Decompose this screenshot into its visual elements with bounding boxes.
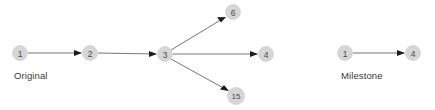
node-label: 2 [88, 49, 93, 59]
edge-2-to-3 [98, 51, 157, 57]
node-label: 1 [343, 49, 348, 59]
graph-svg: 1 2 3 6 4 15 [0, 0, 435, 110]
edge-3-to-6 [171, 17, 226, 50]
edge-m1-to-m4 [353, 50, 405, 56]
node-label: 4 [264, 50, 269, 60]
arrowhead-icon [149, 51, 157, 57]
node-label: 1 [18, 49, 23, 59]
diagram-milestone: 1 4 [338, 46, 421, 61]
edge-1-to-2 [28, 50, 82, 56]
diagram-original: 1 2 3 6 4 15 [13, 5, 274, 105]
node-label: 3 [163, 50, 168, 60]
node-milestone-1[interactable]: 1 [338, 46, 353, 61]
node-label: 15 [232, 92, 241, 101]
arrowhead-icon [250, 51, 258, 57]
node-original-15[interactable]: 15 [228, 88, 245, 105]
node-original-4[interactable]: 4 [259, 47, 274, 62]
node-original-6[interactable]: 6 [226, 5, 241, 20]
node-original-1[interactable]: 1 [13, 46, 28, 61]
node-label: 6 [231, 8, 236, 18]
arrowhead-icon [220, 85, 229, 91]
caption-original: Original [14, 70, 48, 81]
edge-3-to-15 [171, 59, 229, 91]
edge-3-to-4 [173, 51, 258, 57]
diagram-canvas: 1 2 3 6 4 15 [0, 0, 435, 110]
caption-milestone: Milestone [341, 70, 383, 81]
node-label: 4 [411, 49, 416, 59]
arrowhead-icon [397, 50, 405, 56]
node-original-3[interactable]: 3 [158, 47, 173, 62]
node-milestone-4[interactable]: 4 [406, 46, 421, 61]
edge-group-milestone [353, 50, 405, 56]
edge-group-original [28, 17, 258, 91]
arrowhead-icon [74, 50, 82, 56]
node-original-2[interactable]: 2 [83, 46, 98, 61]
